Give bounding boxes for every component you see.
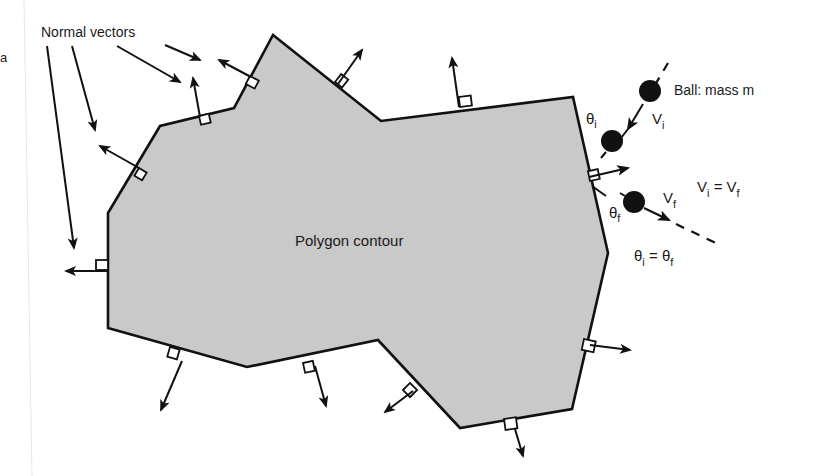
normal-vector-right-lower (582, 339, 630, 352)
margin-glyph: a (0, 50, 8, 65)
ball-label: Ball: mass m (674, 82, 754, 98)
normal-vectors-label: Normal vectors (41, 24, 135, 40)
incident-velocity-label: Vi (652, 110, 664, 131)
normal-vector-collision-point (588, 168, 628, 181)
normal-vector-peak-right (335, 50, 362, 88)
normal-vector-left-side (66, 260, 108, 271)
normal-vector-top-right (452, 58, 472, 107)
final-velocity-label: Vf (663, 189, 677, 210)
velocity-equality-label: Vi = Vf (697, 178, 741, 199)
normal-vector-bottom-mid (303, 361, 326, 406)
ball-outgoing (623, 191, 645, 213)
collision-diagram: a Polygon contour (0, 0, 813, 476)
normal-vector-bottom-right (504, 417, 523, 456)
incident-angle-label: θi (586, 110, 597, 130)
page-margin-line (24, 0, 32, 476)
ball-impact (601, 130, 623, 152)
normal-vector-bottom-left (161, 347, 182, 410)
reflection-angle-label: θf (609, 204, 621, 224)
angle-equality-label: θi = θf (634, 247, 674, 268)
polygon-contour-label: Polygon contour (295, 232, 403, 249)
ball-incoming (639, 80, 661, 102)
normal-vector-bottom-notch (385, 383, 417, 412)
